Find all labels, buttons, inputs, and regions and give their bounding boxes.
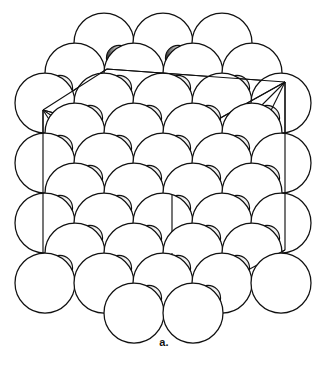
- figure-caption: a.: [0, 336, 328, 348]
- figure-container: a.: [0, 0, 328, 373]
- crystal-structure-diagram: [0, 0, 328, 373]
